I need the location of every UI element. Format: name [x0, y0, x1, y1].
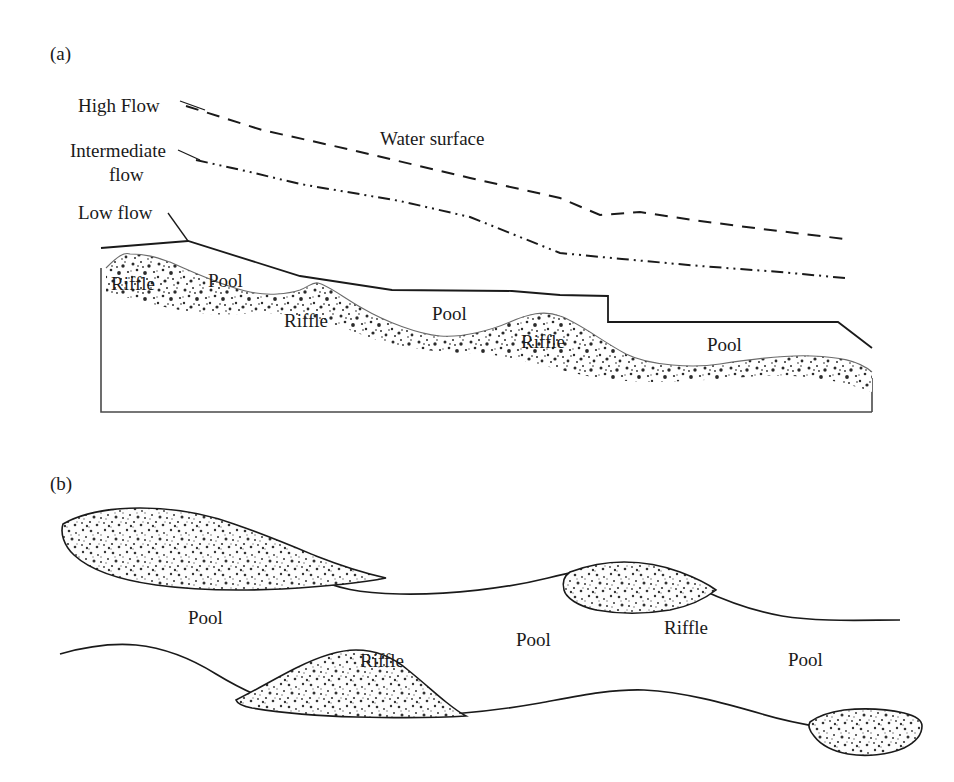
label-panel-b-pool-1: Pool [188, 607, 223, 628]
figure-root: (a) High Flow Intermediate flow Lo [0, 0, 954, 782]
high-flow-water-surface-line [186, 106, 845, 239]
low-flow-leader-line [168, 213, 188, 241]
label-intermediate-flow-line1: Intermediate [70, 140, 166, 161]
panel-b-lower-bank-line [60, 644, 900, 736]
label-panel-a-riffle-1: Riffle [111, 273, 155, 294]
gravel-bar-upper-right [563, 562, 716, 613]
panel-a: (a) High Flow Intermediate flow Lo [50, 43, 885, 412]
intermediate-flow-water-surface-line [196, 160, 845, 278]
panel-a-tag: (a) [50, 43, 71, 65]
label-panel-b-riffle-2: Riffle [664, 617, 708, 638]
label-panel-a-riffle-3: Riffle [521, 331, 565, 352]
label-panel-b-pool-3: Pool [788, 649, 823, 670]
panel-b: (b) Pool Riffle Pool Riffle Pool [50, 473, 922, 755]
gravel-bar-lower-middle [236, 650, 466, 718]
panel-b-tag: (b) [50, 473, 72, 495]
label-panel-a-pool-3: Pool [707, 334, 742, 355]
label-high-flow: High Flow [78, 95, 160, 116]
label-panel-b-pool-2: Pool [516, 629, 551, 650]
label-panel-a-pool-2: Pool [432, 303, 467, 324]
intermediate-flow-leader-line [178, 150, 200, 160]
label-panel-a-riffle-2: Riffle [284, 310, 328, 331]
label-water-surface: Water surface [380, 128, 484, 149]
panel-a-bed-gravel-fill [95, 240, 885, 410]
gravel-bar-upper-left [62, 508, 386, 590]
label-panel-b-riffle-1: Riffle [360, 650, 404, 671]
gravel-bar-lower-right [809, 709, 922, 755]
riffle-pool-figure: (a) High Flow Intermediate flow Lo [0, 0, 954, 782]
label-panel-a-pool-1: Pool [208, 270, 243, 291]
label-intermediate-flow-line2: flow [109, 164, 144, 185]
label-low-flow: Low flow [78, 202, 153, 223]
